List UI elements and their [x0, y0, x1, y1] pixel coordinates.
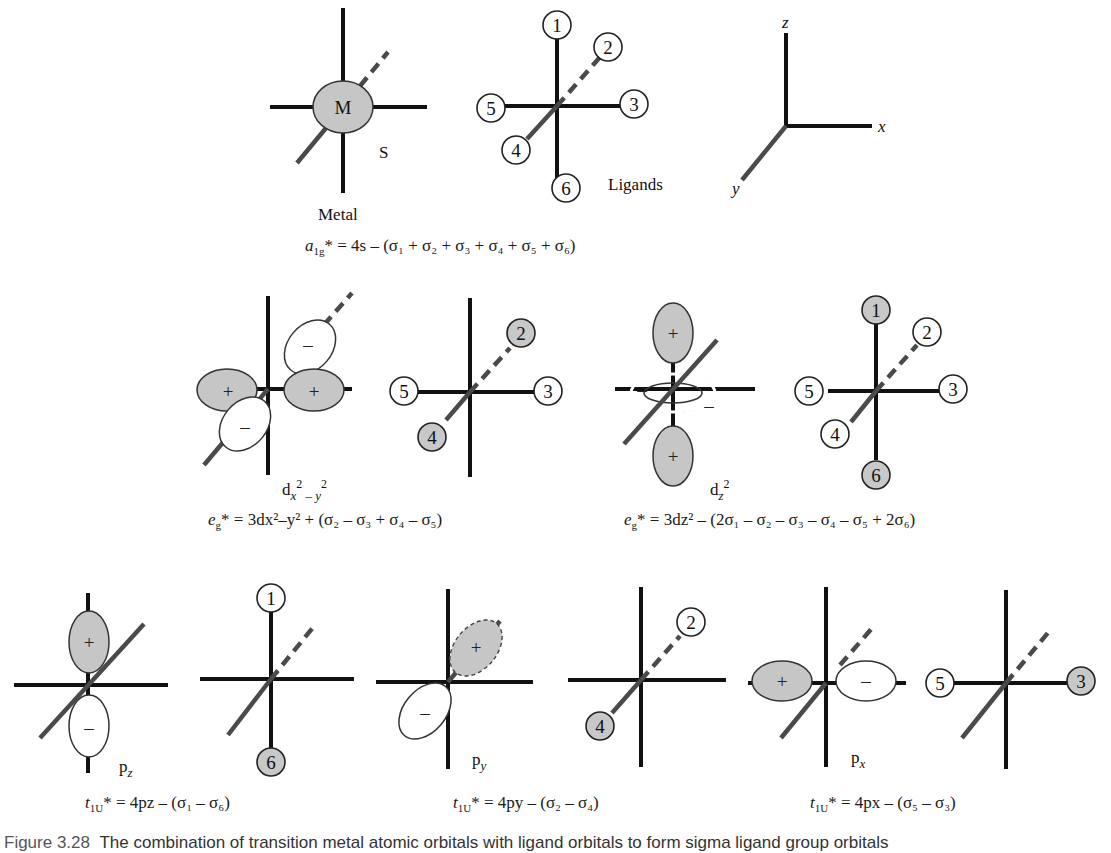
- svg-text:–: –: [83, 717, 94, 738]
- svg-text:+: +: [309, 381, 320, 402]
- dx2y2-label: dx2 – y2: [282, 477, 327, 503]
- pz-label: pz: [119, 757, 133, 780]
- svg-text:1: 1: [871, 300, 881, 321]
- ligand-5: 5: [926, 669, 954, 697]
- metal-s-orbital: M S Metal: [270, 8, 427, 224]
- svg-text:–: –: [419, 702, 430, 723]
- ligand-3: 3: [939, 375, 967, 403]
- ligand-3: 3: [534, 377, 562, 405]
- px-label: px: [851, 748, 866, 771]
- metal-caption: Metal: [318, 205, 358, 224]
- svg-text:3: 3: [948, 379, 958, 400]
- ligand-3: 3: [620, 90, 648, 118]
- svg-text:5: 5: [486, 98, 496, 119]
- svg-text:3: 3: [629, 94, 639, 115]
- y-axis-label: y: [730, 179, 740, 198]
- dz2-orbital: + + – – dz2: [615, 303, 755, 503]
- equation-eg-dx2y2: eg* = 3dx²–y² + (σ₂ – σ₃ + σ₄ – σ₅): [208, 510, 442, 531]
- svg-text:6: 6: [561, 178, 571, 199]
- svg-text:1: 1: [266, 588, 276, 609]
- ligand-set-dz2: 1 2 3 4 5 6: [795, 296, 967, 489]
- equation-eg-dz2: eg* = 3dz² – (2σ₁ – σ₂ – σ₃ – σ₄ – σ₅ + …: [624, 510, 915, 531]
- ligand-set-a1g: 1 2 3 4 5 6 Ligands: [477, 11, 663, 202]
- svg-text:2: 2: [516, 323, 526, 344]
- svg-text:2: 2: [922, 322, 932, 343]
- py-orbital: + – py: [376, 589, 533, 773]
- svg-text:+: +: [223, 381, 234, 402]
- ligand-5: 5: [390, 377, 418, 405]
- x-axis-label: x: [877, 117, 886, 136]
- ligand-set-px: 5 3: [926, 590, 1095, 769]
- ligand-set-pz: 1 6: [200, 584, 354, 776]
- svg-text:3: 3: [1076, 671, 1086, 692]
- svg-text:+: +: [668, 446, 679, 467]
- equation-t1u-py: t1U* = 4py – (σ₂ – σ₄): [453, 793, 599, 814]
- ligand-6: 6: [862, 461, 890, 489]
- dx2y2-orbital: + + – – dx2 – y2: [197, 293, 352, 503]
- ligand-6: 6: [552, 174, 580, 202]
- dz2-label: dz2: [710, 477, 730, 503]
- ligand-2: 2: [913, 318, 941, 346]
- equation-t1u-px: t1U* = 4px – (σ₅ – σ₃): [810, 793, 956, 814]
- ligand-5: 5: [477, 94, 505, 122]
- ligand-1: 1: [543, 11, 571, 39]
- svg-text:6: 6: [266, 752, 276, 773]
- svg-text:4: 4: [427, 427, 437, 448]
- svg-text:–: –: [636, 379, 647, 400]
- svg-text:6: 6: [871, 465, 881, 486]
- px-orbital: + – px: [748, 587, 906, 771]
- ligand-2: 2: [507, 319, 535, 347]
- ligand-3: 3: [1067, 667, 1095, 695]
- pz-orbital: + – pz: [14, 593, 168, 780]
- svg-text:+: +: [777, 671, 788, 692]
- equation-a1g: a1g* = 4s – (σ₁ + σ₂ + σ₃ + σ₄ + σ₅ + σ₆…: [305, 236, 576, 257]
- s-orbital-label: S: [379, 143, 388, 162]
- ligand-4: 4: [586, 712, 614, 740]
- svg-text:+: +: [471, 637, 482, 658]
- svg-text:+: +: [668, 323, 679, 344]
- ligand-1: 1: [862, 296, 890, 324]
- svg-text:5: 5: [399, 381, 409, 402]
- svg-text:4: 4: [830, 424, 840, 445]
- svg-text:5: 5: [804, 381, 814, 402]
- svg-text:4: 4: [595, 716, 605, 737]
- caption-label: Figure 3.28: [4, 833, 90, 852]
- coordinate-axes: z x y: [730, 13, 886, 198]
- svg-text:4: 4: [511, 140, 521, 161]
- svg-text:2: 2: [686, 612, 696, 633]
- ligand-2: 2: [594, 33, 622, 61]
- svg-text:–: –: [302, 334, 313, 355]
- svg-text:2: 2: [603, 37, 613, 58]
- svg-text:3: 3: [543, 381, 553, 402]
- figure-caption: Figure 3.28 The combination of transitio…: [4, 833, 888, 853]
- caption-text: The combination of transition metal atom…: [99, 833, 888, 852]
- svg-text:5: 5: [935, 673, 945, 694]
- svg-text:+: +: [84, 632, 95, 653]
- ligand-2: 2: [677, 608, 705, 636]
- svg-text:1: 1: [552, 15, 562, 36]
- py-label: py: [472, 750, 487, 773]
- svg-text:–: –: [860, 670, 871, 691]
- ligands-caption: Ligands: [608, 175, 663, 194]
- ligand-1: 1: [257, 584, 285, 612]
- ligand-4: 4: [502, 136, 530, 164]
- ligand-4: 4: [821, 420, 849, 448]
- z-axis-label: z: [781, 13, 789, 32]
- ligand-4: 4: [418, 423, 446, 451]
- ligand-set-py: 2 4: [568, 587, 726, 767]
- ligand-set-dx2y2: 2 3 4 5: [390, 298, 562, 477]
- svg-text:–: –: [239, 416, 250, 437]
- equation-t1u-pz: t1U* = 4pz – (σ₁ – σ₆): [85, 793, 230, 814]
- metal-center-label: M: [335, 97, 352, 118]
- ligand-6: 6: [257, 748, 285, 776]
- svg-text:–: –: [703, 395, 714, 416]
- ligand-5: 5: [795, 377, 823, 405]
